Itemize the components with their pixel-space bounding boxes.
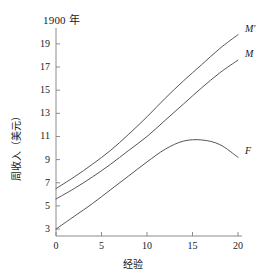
x-tick-label: 10	[137, 240, 157, 251]
x-tick-label: 20	[228, 240, 248, 251]
y-tick-label: 9	[30, 154, 50, 165]
axes	[56, 28, 242, 236]
data-curves	[56, 35, 238, 229]
series-label-m: M	[245, 48, 253, 59]
y-tick-label: 19	[30, 38, 50, 49]
y-tick-label: 3	[30, 223, 50, 234]
curve-f	[56, 140, 238, 229]
x-tick-label: 15	[183, 240, 203, 251]
series-label-f: F	[245, 145, 251, 156]
y-tick-label: 15	[30, 84, 50, 95]
chart-figure: 1900 年 周收入（美元） 经验 3579111315171905101520…	[0, 0, 266, 280]
curve-m	[56, 60, 238, 199]
series-label-m: M′	[245, 23, 256, 34]
x-tick-label: 5	[92, 240, 112, 251]
y-tick-label: 7	[30, 177, 50, 188]
y-tick-label: 11	[30, 130, 50, 141]
y-tick-label: 13	[30, 107, 50, 118]
axis-ticks	[56, 44, 238, 236]
curve-m	[56, 35, 238, 189]
y-tick-label: 17	[30, 61, 50, 72]
x-tick-label: 0	[46, 240, 66, 251]
y-tick-label: 5	[30, 200, 50, 211]
